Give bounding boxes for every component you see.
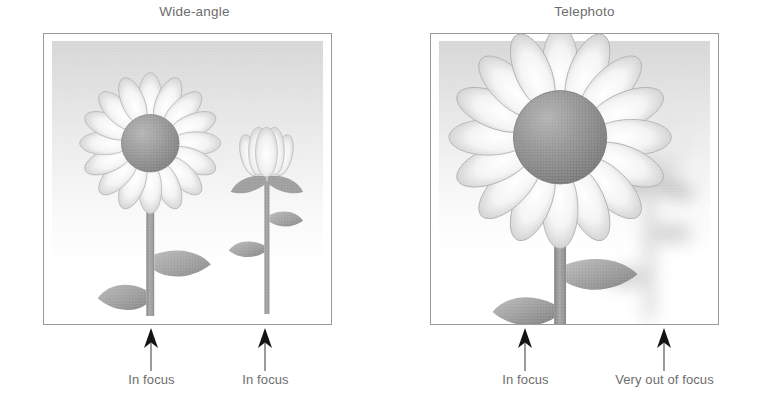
photo-frame-telephoto <box>430 33 719 325</box>
callout-wide-foreground: In focus <box>151 328 152 329</box>
panel-telephoto: Telephoto <box>390 0 779 409</box>
depth-of-field-figure: Wide-angle <box>0 0 779 409</box>
panel-wide-angle: Wide-angle <box>0 0 389 409</box>
up-arrow-icon <box>655 328 673 372</box>
photo-telephoto <box>431 34 718 324</box>
callout-label: In focus <box>502 372 548 387</box>
callout-label: In focus <box>242 372 288 387</box>
callout-label: In focus <box>128 372 174 387</box>
photo-wide-angle <box>44 34 331 324</box>
panel-title-wide-angle: Wide-angle <box>0 4 389 19</box>
callout-label: Very out of focus <box>615 372 714 387</box>
callout-telephoto-background: Very out of focus <box>664 328 665 329</box>
up-arrow-icon <box>142 328 160 372</box>
up-arrow-icon <box>516 328 534 372</box>
callout-telephoto-foreground: In focus <box>525 328 526 329</box>
photo-frame-wide-angle <box>43 33 332 325</box>
callout-wide-background: In focus <box>265 328 266 329</box>
up-arrow-icon <box>256 328 274 372</box>
panel-title-telephoto: Telephoto <box>390 4 779 19</box>
